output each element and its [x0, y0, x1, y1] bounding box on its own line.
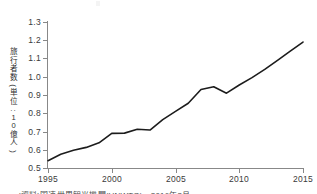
- chart-figure: 旅行者数(単位:10億人) 0.50.60.70.80.91.01.11.21.…: [0, 0, 317, 194]
- series-line-group: [0, 0, 317, 194]
- source-caption: (資料)国連世界観光機関(UNWTO)、2016年3月: [18, 189, 190, 194]
- series-line-tourist-arrivals: [48, 42, 303, 161]
